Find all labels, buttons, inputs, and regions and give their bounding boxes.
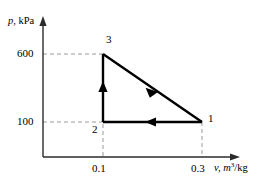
y-axis-label: p, kPa bbox=[8, 16, 34, 27]
state-point-label-3: 3 bbox=[106, 34, 112, 45]
y-axis-arrowhead bbox=[39, 16, 46, 26]
x-tick-label-0-3: 0.3 bbox=[191, 163, 205, 174]
arrow-2-to-3-up bbox=[98, 81, 107, 92]
pv-diagram-figure: p, kPa v, m3/kg 600 100 0.1 0.3 3 2 1 bbox=[0, 0, 263, 184]
state-point-label-2: 2 bbox=[92, 124, 98, 135]
pv-diagram-canvas bbox=[0, 0, 263, 184]
y-tick-label-100: 100 bbox=[17, 116, 34, 127]
process-3-to-1-line bbox=[103, 54, 202, 122]
arrow-1-to-2-left bbox=[145, 117, 156, 126]
axes bbox=[39, 16, 240, 161]
x-tick-label-0-1: 0.1 bbox=[92, 163, 106, 174]
process-direction-arrows bbox=[98, 81, 158, 127]
y-tick-label-600: 600 bbox=[17, 48, 34, 59]
y-axis-label-unit: , kPa bbox=[13, 15, 34, 26]
x-axis-label-variable: v, m bbox=[214, 162, 231, 173]
state-point-label-1: 1 bbox=[208, 113, 214, 124]
x-axis-label: v, m3/kg bbox=[214, 163, 248, 174]
x-axis-label-tail: /kg bbox=[234, 162, 247, 173]
process-cycle-path bbox=[103, 54, 202, 122]
